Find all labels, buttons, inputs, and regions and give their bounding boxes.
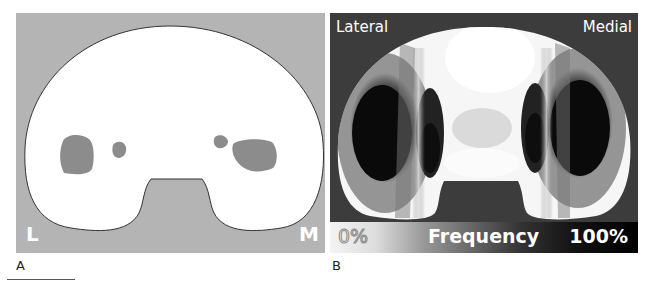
panel-a-letter: A xyxy=(16,258,25,273)
medial-label: Medial xyxy=(583,18,632,36)
lateral-label: Lateral xyxy=(336,18,388,36)
colorbar-title: Frequency xyxy=(428,225,539,247)
lateral-corner-label: L xyxy=(26,222,39,246)
panel-b-frequency-map: Lateral Medial 0% Frequency 100% xyxy=(330,13,638,253)
tibial-plateau-outline-a xyxy=(16,13,325,253)
scale-bar xyxy=(7,279,75,280)
frequency-colorbar: 0% Frequency 100% xyxy=(330,222,638,253)
medial-corner-label: M xyxy=(299,222,319,246)
colorbar-min-label: 0% xyxy=(338,225,368,247)
colorbar-max-label: 100% xyxy=(569,225,628,247)
panel-a-contact-map: L M xyxy=(16,13,325,253)
contact-patch-lateral-large xyxy=(60,135,94,174)
panel-b-letter: B xyxy=(332,258,341,273)
frequency-heatmap xyxy=(330,13,638,253)
